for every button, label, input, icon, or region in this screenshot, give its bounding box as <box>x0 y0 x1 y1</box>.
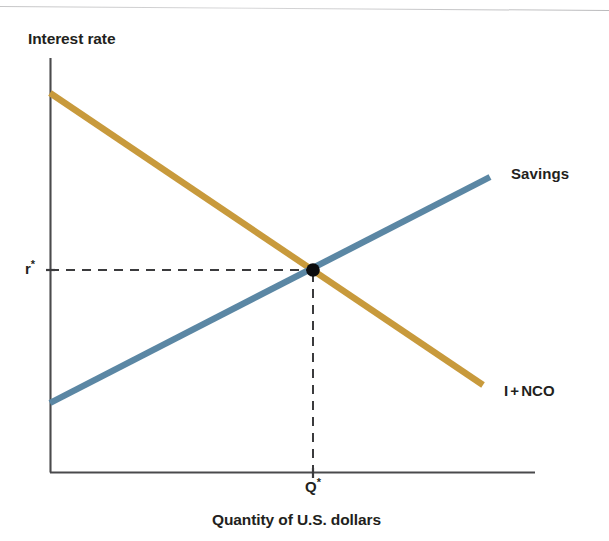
y-axis-tick-label-r-star: r* <box>25 261 35 276</box>
savings-curve-label: Savings <box>511 166 569 181</box>
investment-nco-curve <box>50 93 483 385</box>
loanable-funds-figure: Interest rate Quantity of U.S. dollars r… <box>0 0 609 541</box>
q-star-asterisk: * <box>317 476 321 488</box>
r-star-asterisk: * <box>31 258 35 270</box>
q-star-base: Q <box>305 478 317 495</box>
y-axis-title: Interest rate <box>28 31 115 47</box>
x-axis-tick-label-q-star: Q* <box>305 479 321 494</box>
equilibrium-point-dot <box>306 263 320 277</box>
savings-curve <box>50 177 490 403</box>
chart-canvas <box>0 0 609 541</box>
incoo-label-plus: + <box>508 382 521 399</box>
incoo-label-nco: NCO <box>521 382 555 399</box>
x-axis-title: Quantity of U.S. dollars <box>212 512 381 528</box>
investment-nco-curve-label: I+NCO <box>504 383 555 398</box>
